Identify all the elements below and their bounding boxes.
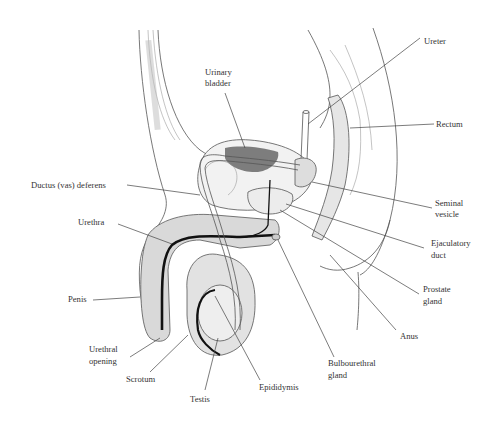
label-ejaculatory-duct-line2: duct: [431, 250, 446, 260]
ureter-tube: [301, 112, 309, 160]
buttock-outline: [320, 220, 390, 270]
leader-urethral-opening: [130, 338, 160, 357]
leader-anus: [330, 255, 396, 330]
rectus-muscle-shade: [145, 40, 160, 130]
bulbourethral-gland-shape: [272, 234, 280, 240]
label-prostate-gland-line2: gland: [423, 296, 443, 306]
leader-ureter: [308, 38, 420, 124]
perineal-line: [357, 272, 359, 330]
label-rectum: Rectum: [436, 119, 463, 129]
leader-ductus-deferens: [127, 185, 200, 195]
anatomy-diagram: Ureter Urinary bladder Rectum Ductus (va…: [0, 0, 503, 423]
label-bulbourethral-gland-line2: gland: [328, 370, 348, 380]
label-penis: Penis: [68, 294, 87, 304]
seminal-vesicle-shape: [295, 158, 316, 187]
label-ureter: Ureter: [424, 36, 446, 46]
label-anus: Anus: [400, 331, 419, 341]
label-urethra: Urethra: [78, 217, 104, 227]
label-scrotum: Scrotum: [126, 374, 155, 384]
label-urinary-bladder-line1: Urinary: [205, 67, 232, 77]
ureter-end: [303, 111, 309, 114]
leader-rectum: [350, 124, 434, 128]
label-testis: Testis: [190, 394, 211, 404]
leader-bulbourethral-gland: [278, 240, 334, 357]
label-urethral-opening-line2: opening: [89, 356, 117, 366]
label-prostate-gland-line1: Prostate: [423, 284, 451, 294]
label-urinary-bladder-line2: bladder: [205, 78, 231, 88]
label-seminal-vesicle-line1: Seminal: [435, 198, 464, 208]
label-ductus-deferens: Ductus (vas) deferens: [31, 180, 107, 190]
label-seminal-vesicle-line2: vesicle: [435, 209, 459, 219]
label-ejaculatory-duct-line1: Ejaculatory: [431, 238, 471, 248]
leader-lines: [93, 38, 434, 390]
label-urethral-opening-line1: Urethral: [89, 344, 118, 354]
diagram-canvas: Ureter Urinary bladder Rectum Ductus (va…: [0, 0, 503, 423]
leader-prostate-gland: [280, 210, 419, 294]
label-bulbourethral-gland-line1: Bulbourethral: [328, 358, 376, 368]
label-epididymis: Epididymis: [259, 382, 299, 392]
sacrum-outline: [308, 30, 330, 128]
leader-penis: [93, 297, 140, 300]
